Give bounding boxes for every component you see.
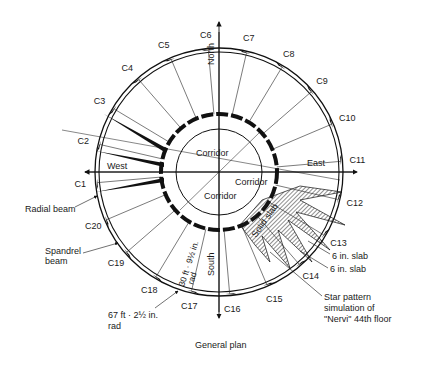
star-pattern-label-3: "Nervi" 44th floor — [324, 314, 391, 324]
general-plan-diagram: Solid slab C1C2C3C4C5C6C7C8C9C10C11C12C1… — [0, 0, 426, 370]
spandrel-label-1: Spandrel — [45, 246, 81, 256]
corridor-label-south: Corridor — [204, 191, 237, 201]
corridor-label-north: Corridor — [196, 148, 229, 158]
column-label: C20 — [85, 221, 102, 231]
column-label: C1 — [75, 179, 87, 189]
north-label: North — [206, 43, 216, 65]
spandrel-label-2: beam — [45, 256, 68, 266]
south-label: South — [206, 252, 216, 276]
star-pattern-label-2: simulation of — [324, 303, 375, 313]
column-label: C19 — [108, 258, 125, 268]
east-label: East — [307, 158, 326, 168]
column-label: C10 — [339, 113, 356, 123]
column-label: C2 — [78, 136, 90, 146]
column-label: C16 — [224, 304, 241, 314]
slab-label-2: 6 in. slab — [330, 264, 366, 274]
column-label: C3 — [94, 96, 106, 106]
column-marker — [226, 293, 239, 295]
radial-beams — [96, 114, 166, 192]
column-label: C17 — [181, 301, 198, 311]
corridor-label-east: Corridor — [235, 177, 268, 187]
column-label: C12 — [346, 198, 363, 208]
star-pattern-slab: Solid slab — [240, 186, 345, 268]
slab-label-1: 6 in. slab — [332, 251, 368, 261]
diagram-caption: General plan — [195, 340, 247, 350]
column-label: C13 — [330, 238, 347, 248]
column-label: C18 — [141, 285, 158, 295]
column-label: C14 — [303, 271, 320, 281]
star-pattern-label-1: Star pattern — [324, 292, 371, 302]
column-label: C11 — [349, 155, 365, 165]
outer-radius-label-2: rad — [108, 321, 121, 331]
column-label: C9 — [316, 76, 328, 86]
column-marker — [96, 179, 98, 192]
column-label: C5 — [158, 40, 170, 50]
column-label: C7 — [243, 33, 255, 43]
column-label: C6 — [200, 30, 212, 40]
radial-beam-label: Radial beam — [25, 204, 76, 214]
column-marker — [340, 152, 342, 165]
column-label: C4 — [121, 63, 133, 73]
column-label: C15 — [266, 294, 283, 304]
column-label: C8 — [283, 49, 295, 59]
west-label: West — [107, 161, 128, 171]
outer-radius-label-1: 67 ft · 2½ in. — [108, 310, 158, 320]
